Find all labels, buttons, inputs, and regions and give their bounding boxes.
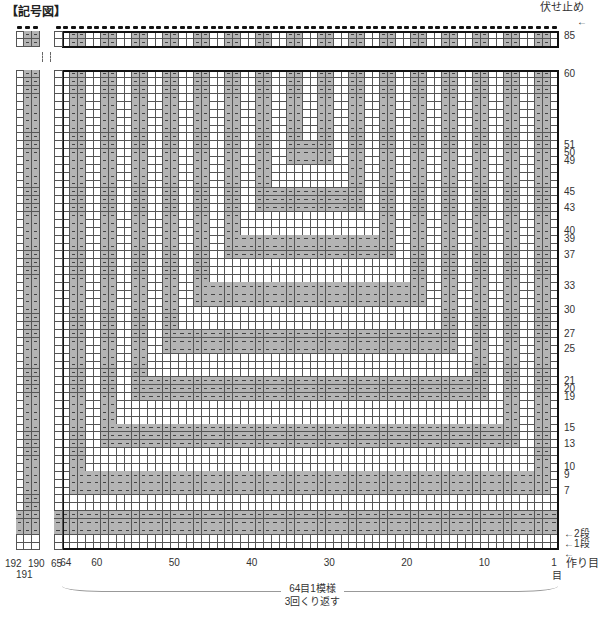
repeat-label-line2: 3回くり返す: [0, 596, 605, 607]
bind-off-mark: [155, 25, 163, 29]
row-label-30: 30: [564, 305, 575, 315]
bind-off-mark: [32, 25, 40, 29]
bind-off-mark: [202, 25, 210, 29]
bind-off-mark: [426, 25, 434, 29]
col-label-192: 192: [5, 558, 22, 569]
chart-cell: [54, 542, 62, 550]
bind-off-mark: [496, 25, 504, 29]
row-label-15: 15: [564, 423, 575, 433]
bind-off-mark: [372, 25, 380, 29]
row-label-43: 43: [564, 203, 575, 213]
chart-grid-main: [62, 70, 558, 550]
bind-off-arrow: ←: [577, 16, 587, 27]
bind-off-mark: [473, 25, 481, 29]
bind-off-mark: [256, 25, 264, 29]
row-label-27: 27: [564, 329, 575, 339]
bind-off-mark: [171, 25, 179, 29]
bind-off-mark: [62, 25, 70, 29]
bind-off-mark: [442, 25, 450, 29]
section-gap-mark: [50, 52, 51, 62]
bind-off-mark: [295, 25, 303, 29]
bind-off-mark: [357, 25, 365, 29]
bind-off-mark: [186, 25, 194, 29]
bind-off-mark: [395, 25, 403, 29]
bind-off-mark: [550, 25, 558, 29]
bind-off-mark: [287, 25, 295, 29]
chart-cell: [550, 542, 558, 550]
bind-off-mark: [333, 25, 341, 29]
row-label-37: 37: [564, 250, 575, 260]
col-label-20: 20: [401, 557, 412, 568]
bind-off-mark: [248, 25, 256, 29]
bind-off-mark: [481, 25, 489, 29]
bind-off-mark: [504, 25, 512, 29]
chart-grid-col-65: [54, 70, 62, 550]
bind-off-mark: [380, 25, 388, 29]
bind-off-mark: [512, 25, 520, 29]
bind-off-mark: [271, 25, 279, 29]
chart-cell: [550, 39, 558, 47]
row-label-7: 7: [564, 486, 570, 496]
chart-grid-top-main: [62, 31, 558, 47]
bind-off-mark: [233, 25, 241, 29]
bind-off-mark: [147, 25, 155, 29]
bind-off-mark: [217, 25, 225, 29]
bind-off-mark: [341, 25, 349, 29]
bind-off-label: 伏せ止め: [540, 2, 584, 13]
row-label-13: 13: [564, 439, 575, 449]
bind-off-mark: [54, 25, 62, 29]
row-label-60: 60: [564, 69, 575, 79]
bind-off-mark: [419, 25, 427, 29]
bind-off-mark: [101, 25, 109, 29]
chart-cell: [32, 542, 40, 550]
bind-off-mark: [527, 25, 535, 29]
chart-grid-col-65-top: [54, 31, 62, 47]
col-label-60: 60: [91, 557, 102, 568]
chart-title: 【記号図】: [6, 2, 66, 19]
col-label-65: 65: [51, 558, 62, 569]
bind-off-mark: [457, 25, 465, 29]
bind-off-mark: [519, 25, 527, 29]
row-label-39: 39: [564, 234, 575, 244]
bind-off-mark: [24, 25, 32, 29]
bind-off-mark: [194, 25, 202, 29]
col-label-50: 50: [169, 557, 180, 568]
bind-off-mark: [403, 25, 411, 29]
bind-off-mark: [16, 25, 24, 29]
bind-off-mark: [450, 25, 458, 29]
row-label-85: 85: [564, 31, 575, 41]
row-label-19: 19: [564, 392, 575, 402]
col-label-1: 1: [551, 557, 557, 568]
bind-off-mark: [302, 25, 310, 29]
bind-off-mark: [543, 25, 551, 29]
bind-off-mark: [326, 25, 334, 29]
bind-off-marks-left: [16, 25, 39, 29]
bind-off-mark: [116, 25, 124, 29]
bind-off-mark: [318, 25, 326, 29]
bind-off-mark: [124, 25, 132, 29]
row-label-25: 25: [564, 344, 575, 354]
row-label-9: 9: [564, 470, 570, 480]
bind-off-mark: [488, 25, 496, 29]
bind-off-mark: [535, 25, 543, 29]
bind-off-mark: [85, 25, 93, 29]
col-label-30: 30: [324, 557, 335, 568]
bind-off-marks-main: [54, 25, 558, 29]
bind-off-mark: [388, 25, 396, 29]
bind-off-mark: [279, 25, 287, 29]
bind-off-mark: [310, 25, 318, 29]
bind-off-mark: [178, 25, 186, 29]
cast-on-label: 作り目: [566, 558, 599, 569]
bind-off-mark: [163, 25, 171, 29]
bind-off-mark: [465, 25, 473, 29]
bind-off-mark: [132, 25, 140, 29]
bind-off-mark: [349, 25, 357, 29]
chart-cell: [32, 39, 40, 47]
bind-off-mark: [109, 25, 117, 29]
col-1-unit: 目: [552, 570, 562, 581]
repeat-label-line1: 64目1模様: [0, 583, 605, 594]
bind-off-mark: [70, 25, 78, 29]
bind-off-mark: [209, 25, 217, 29]
bind-off-mark: [364, 25, 372, 29]
col-label-190: 190: [28, 558, 45, 569]
